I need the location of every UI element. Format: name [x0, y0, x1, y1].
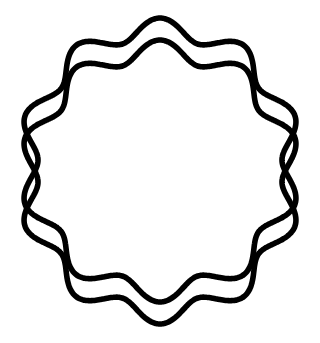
canvas-background — [0, 0, 320, 343]
scalloped-circles-figure — [0, 0, 320, 343]
figure-canvas — [0, 0, 320, 343]
